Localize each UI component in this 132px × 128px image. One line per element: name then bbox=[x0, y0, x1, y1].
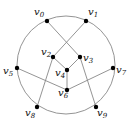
edge-v6-v7 bbox=[67, 68, 113, 90]
label-v4: v4 bbox=[55, 67, 65, 80]
label-v2: v2 bbox=[41, 46, 52, 59]
edge-v2-v8 bbox=[37, 57, 53, 107]
edge-v1-v2 bbox=[53, 21, 86, 57]
vertex-v4 bbox=[65, 68, 69, 72]
vertex-v7 bbox=[111, 66, 115, 70]
edge-v3-v4 bbox=[67, 57, 80, 70]
label-v1: v1 bbox=[88, 6, 98, 19]
label-v0: v0 bbox=[34, 6, 45, 19]
vertex-v5 bbox=[15, 66, 19, 70]
vertex-v3 bbox=[78, 55, 82, 59]
label-v8: v8 bbox=[25, 107, 36, 120]
vertex-v2 bbox=[51, 55, 55, 59]
vertex-labels: v0v1v2v3v4v5v6v7v8v9 bbox=[3, 6, 127, 120]
vertex-v0 bbox=[45, 19, 49, 23]
vertex-v1 bbox=[84, 19, 88, 23]
vertex-v8 bbox=[35, 105, 39, 109]
edge-v0-v3 bbox=[47, 21, 80, 57]
label-v9: v9 bbox=[97, 107, 108, 120]
label-v3: v3 bbox=[83, 52, 94, 65]
label-v7: v7 bbox=[116, 64, 127, 77]
graph-diagram: v0v1v2v3v4v5v6v7v8v9 bbox=[0, 0, 132, 128]
label-v5: v5 bbox=[3, 65, 14, 78]
